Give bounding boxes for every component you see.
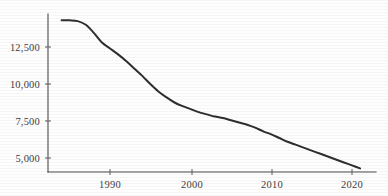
x-tick-label-1990: 1990: [99, 179, 121, 190]
line-chart-canvas: 12,500 10,000 7,500 5,000 1990 2000 2010…: [0, 0, 388, 196]
y-axis-tick-labels: 12,500 10,000 7,500 5,000: [10, 42, 40, 164]
x-tick-label-2020: 2020: [341, 179, 363, 190]
y-tick-label-12500: 12,500: [10, 42, 40, 53]
x-tick-label-2000: 2000: [181, 179, 203, 190]
y-tick-label-5000: 5,000: [15, 153, 40, 164]
chart-figure: 12,500 10,000 7,500 5,000 1990 2000 2010…: [0, 0, 388, 196]
y-tick-label-10000: 10,000: [10, 79, 40, 90]
x-tick-label-2010: 2010: [261, 179, 283, 190]
x-axis-tick-labels: 1990 2000 2010 2020: [99, 179, 363, 190]
data-series-line: [62, 20, 360, 168]
y-tick-label-7500: 7,500: [15, 116, 40, 127]
